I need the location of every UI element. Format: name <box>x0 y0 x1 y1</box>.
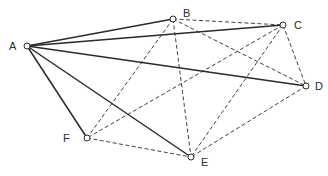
edge-c-d <box>283 25 306 86</box>
edge-d-e <box>191 86 306 157</box>
node-label-e: E <box>201 157 208 168</box>
node-c <box>280 22 286 28</box>
graph-edges <box>0 0 328 176</box>
graph-diagram: ABCDEF <box>0 0 328 176</box>
node-label-c: C <box>294 20 302 31</box>
edge-a-f <box>27 46 87 138</box>
node-label-b: B <box>183 8 190 19</box>
edge-b-c <box>173 19 283 25</box>
edge-a-c <box>27 25 283 46</box>
node-label-a: A <box>9 41 16 52</box>
node-label-d: D <box>315 81 323 92</box>
node-e <box>188 154 194 160</box>
edge-c-f <box>87 25 283 138</box>
node-b <box>170 16 176 22</box>
node-a <box>24 43 30 49</box>
edge-f-e <box>87 138 191 157</box>
edge-c-e <box>191 25 283 157</box>
edge-a-b <box>27 19 173 46</box>
node-label-f: F <box>63 133 70 144</box>
edge-b-e <box>173 19 191 157</box>
edge-a-e <box>27 46 191 157</box>
node-f <box>84 135 90 141</box>
node-d <box>303 83 309 89</box>
